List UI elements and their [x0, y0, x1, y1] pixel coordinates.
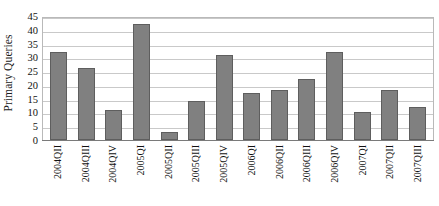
x-label-slot: 2007QIII: [404, 143, 432, 205]
x-label-slot: 2005QI: [127, 143, 155, 205]
bar-slot: [238, 18, 266, 140]
bar[interactable]: [243, 93, 260, 140]
y-tick-label: 0: [33, 136, 38, 147]
x-label-slot: 2007QII: [377, 143, 405, 205]
bar-slot: [128, 18, 156, 140]
bar-slot: [266, 18, 294, 140]
x-tick-label: 2004QII: [53, 145, 63, 179]
bar[interactable]: [105, 110, 122, 140]
x-tick-label: 2006QI: [247, 145, 257, 176]
bar[interactable]: [326, 52, 343, 140]
x-tick-label: 2007QI: [358, 145, 368, 176]
bar-slot: [293, 18, 321, 140]
bar-slot: [73, 18, 101, 140]
y-tick-label: 45: [28, 12, 39, 23]
bar-slot: [100, 18, 128, 140]
x-tick-label: 2007QIII: [413, 145, 423, 182]
x-label-slot: 2006QI: [238, 143, 266, 205]
bar[interactable]: [216, 55, 233, 140]
bar-slot: [348, 18, 376, 140]
bar-slot: [183, 18, 211, 140]
bar-slot: [45, 18, 73, 140]
plot-area: [42, 17, 434, 141]
x-axis-tick-labels: 2004QII2004QIII2004QIV2005QI2005QII2005Q…: [42, 143, 434, 205]
bar-slot: [404, 18, 432, 140]
x-label-slot: 2004QIII: [72, 143, 100, 205]
x-label-slot: 2004QII: [44, 143, 72, 205]
x-label-slot: 2006QII: [266, 143, 294, 205]
x-tick-label: 2004QIII: [81, 145, 91, 182]
bar[interactable]: [78, 68, 95, 140]
bar[interactable]: [409, 107, 426, 140]
y-tick-label: 30: [28, 53, 39, 64]
y-tick-label: 40: [28, 26, 39, 37]
bar-chart: Primary Queries 051015202530354045 2004Q…: [0, 0, 439, 206]
y-tick-label: 15: [28, 94, 39, 105]
y-axis-tick-labels: 051015202530354045: [16, 12, 40, 142]
y-tick-label: 20: [28, 81, 39, 92]
y-axis-title-text: Primary Queries: [2, 34, 14, 111]
bar[interactable]: [298, 79, 315, 140]
x-label-slot: 2005QIV: [210, 143, 238, 205]
x-label-slot: 2007QI: [349, 143, 377, 205]
x-label-slot: 2006QIII: [293, 143, 321, 205]
bar[interactable]: [161, 132, 178, 140]
y-tick-label: 10: [28, 108, 39, 119]
bar-slot: [210, 18, 238, 140]
bar[interactable]: [133, 24, 150, 140]
x-tick-label: 2005QIV: [219, 145, 229, 183]
x-label-slot: 2004QIV: [99, 143, 127, 205]
y-tick-label: 5: [33, 122, 38, 133]
x-label-slot: 2005QIII: [183, 143, 211, 205]
bar-slot: [321, 18, 349, 140]
x-tick-label: 2005QIII: [191, 145, 201, 182]
x-tick-label: 2005QI: [136, 145, 146, 176]
x-tick-label: 2006QIII: [302, 145, 312, 182]
bar[interactable]: [354, 112, 371, 140]
bar[interactable]: [188, 101, 205, 140]
bar[interactable]: [271, 90, 288, 140]
bar-slot: [376, 18, 404, 140]
bar[interactable]: [50, 52, 67, 140]
x-tick-label: 2006QII: [275, 145, 285, 179]
x-tick-label: 2005QII: [164, 145, 174, 179]
x-label-slot: 2005QII: [155, 143, 183, 205]
x-tick-label: 2006QIV: [330, 145, 340, 183]
y-tick-label: 35: [28, 39, 39, 50]
y-axis-title: Primary Queries: [0, 0, 16, 145]
x-tick-label: 2007QII: [385, 145, 395, 179]
y-tick-label: 25: [28, 67, 39, 78]
x-axis-line: [42, 140, 434, 141]
bars-container: [43, 18, 433, 140]
bar[interactable]: [381, 90, 398, 140]
x-tick-label: 2004QIV: [108, 145, 118, 183]
bar-slot: [155, 18, 183, 140]
x-label-slot: 2006QIV: [321, 143, 349, 205]
